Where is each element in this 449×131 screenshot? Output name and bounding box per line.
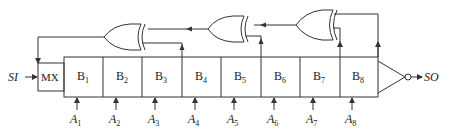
cell-b2: B2 (116, 69, 128, 85)
so-label: SO (424, 70, 439, 84)
xor-gate-3 (296, 10, 337, 40)
input-a6: A6 (266, 112, 278, 128)
cell-b7: B7 (313, 69, 325, 85)
inverter-triangle (378, 61, 405, 93)
cell-b5: B5 (234, 69, 246, 85)
input-a5: A5 (226, 112, 238, 128)
cell-b8: B8 (352, 69, 364, 85)
xor-gate-1 (104, 24, 145, 50)
cell-b1: B1 (77, 69, 89, 85)
input-a4: A4 (187, 112, 199, 128)
lfsr-diagram: SI MX SO B1 B2 B3 B4 B5 B6 B7 B8 A1 A2 A… (0, 0, 449, 131)
input-a7: A7 (305, 112, 317, 128)
input-a1: A1 (69, 112, 81, 128)
input-a3: A3 (147, 112, 159, 128)
xor-gate-2 (208, 16, 248, 42)
cell-b6: B6 (274, 69, 286, 85)
mux-label: MX (41, 71, 59, 83)
input-labels: A1 A2 A3 A4 A5 A6 A7 A8 (69, 112, 356, 128)
cell-b3: B3 (155, 69, 167, 85)
input-a8: A8 (344, 112, 356, 128)
input-a2: A2 (108, 112, 120, 128)
cell-b4: B4 (195, 69, 207, 85)
si-label: SI (8, 70, 19, 84)
